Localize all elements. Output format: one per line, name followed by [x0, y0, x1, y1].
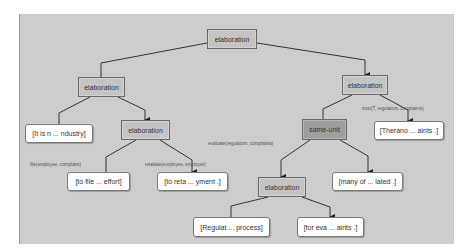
node-label: elaboration	[215, 36, 250, 43]
node-label: elaboration	[265, 184, 300, 191]
edge-label-trust: trust(T, regulators, complaints)	[362, 106, 424, 111]
node-label: elaboration	[348, 82, 383, 89]
leaf-node-therano[interactable]: [Therano ... aints .]	[374, 121, 444, 140]
left-inner-elaboration-node[interactable]: elaboration	[121, 120, 170, 140]
node-label: elaboration	[128, 127, 163, 134]
same-unit-node[interactable]: same-unit	[302, 119, 347, 140]
bottom-elaboration-node[interactable]: elaboration	[258, 177, 306, 197]
leaf-text: [to reta ... yment .]	[164, 178, 220, 185]
leaf-text: [to file ... effort]	[75, 178, 121, 185]
leaf-node-to-file[interactable]: [to file ... effort]	[67, 172, 130, 191]
leaf-text: [for eva ... aints .]	[304, 224, 358, 231]
left-elaboration-node[interactable]: elaboration	[78, 77, 125, 97]
leaf-text: [Regulat ... process]	[200, 224, 262, 231]
leaf-node-industry[interactable]: [It is n ... ndustry]	[25, 124, 93, 143]
leaf-text: [It is n ... ndustry]	[32, 130, 85, 137]
edge-label-file: file(employee, complaint)	[30, 162, 81, 167]
leaf-node-for-eva[interactable]: [for eva ... aints .]	[297, 217, 364, 237]
leaf-node-many-of[interactable]: [many of ... iated .]	[332, 172, 403, 191]
root-elaboration-node[interactable]: elaboration	[207, 29, 257, 49]
edge-label-evaluate: evaluate(regulators, complaints)	[208, 141, 273, 146]
leaf-node-to-reta[interactable]: [to reta ... yment .]	[157, 172, 228, 191]
node-label: elaboration	[84, 84, 119, 91]
leaf-text: [many of ... iated .]	[339, 178, 397, 185]
edge-label-retaliate: retaliate(employee, employer)	[145, 162, 206, 167]
right-elaboration-node[interactable]: elaboration	[342, 75, 388, 95]
leaf-text: [Therano ... aints .]	[380, 127, 438, 134]
leaf-node-regulat[interactable]: [Regulat ... process]	[193, 217, 270, 237]
node-label: same-unit	[309, 126, 340, 133]
